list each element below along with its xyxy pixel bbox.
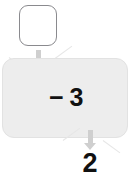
chevron-wing-icon-bottom-right [103,140,121,153]
operator-block-label: − 3 [3,85,129,110]
output-value: 2 [76,150,104,177]
diagram-canvas: − 3 2 [0,0,135,179]
chevron-wing-icon-top-right [55,46,73,59]
input-block[interactable] [19,5,57,46]
arrow-shaft [88,130,93,144]
operator-block[interactable]: − 3 [2,58,128,138]
